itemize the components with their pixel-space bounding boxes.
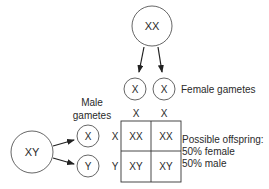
arrow-female-to-gamete-2 [158,47,162,72]
male-gamete-x-label: X [85,131,92,142]
punnett-col-header-1: X [133,108,140,119]
female-parent-node: XX [132,6,172,46]
punnett-square: XX XX XY XY [121,121,181,182]
female-gamete-1-label: X [132,84,139,95]
offspring-summary-title: Possible offspring: [182,134,264,145]
punnett-row-header-2: Y [112,161,119,172]
arrow-male-to-gamete-y [53,158,74,164]
punnett-cell-r1c1: XX [129,131,143,142]
offspring-summary-female: 50% female [182,146,235,157]
sex-determination-diagram: XX X X Female gametes XY Male gametes X … [0,0,269,189]
punnett-cell-r1c2: XX [159,131,173,142]
arrow-male-to-gamete-x [53,140,74,146]
punnett-cell-r2c1: XY [129,161,143,172]
female-gamete-2-label: X [161,84,168,95]
male-gametes-caption-line2: gametes [73,110,111,121]
male-gamete-y-label: Y [85,161,92,172]
male-parent-label: XY [25,146,40,158]
arrow-female-to-gamete-1 [139,47,144,72]
female-gamete-2: X [153,78,175,100]
male-gamete-y: Y [77,155,99,177]
female-gamete-1: X [124,78,146,100]
male-parent-node: XY [11,131,53,173]
female-gametes-caption: Female gametes [181,84,255,95]
punnett-cell-r2c2: XY [159,161,173,172]
punnett-col-header-2: X [161,108,168,119]
punnett-row-header-1: X [112,131,119,142]
female-parent-label: XX [145,20,160,32]
male-gametes-caption-line1: Male [81,97,103,108]
male-gamete-x: X [77,125,99,147]
offspring-summary-male: 50% male [182,158,227,169]
